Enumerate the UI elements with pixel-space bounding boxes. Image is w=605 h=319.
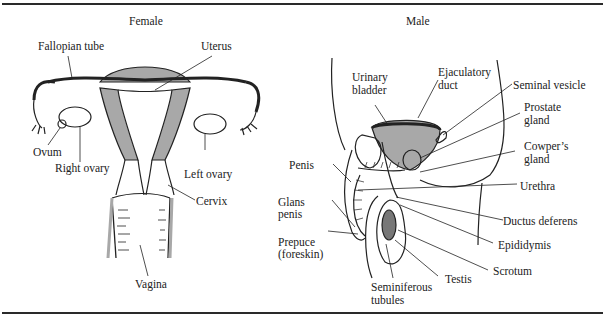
female-panel-title: Female (129, 15, 163, 27)
label-urinary-bladder-line2: bladder (352, 84, 386, 96)
label-vagina: Vagina (135, 278, 167, 290)
label-prepuce-line1: Prepuce (278, 236, 315, 248)
label-ductus-deferens: Ductus deferens (503, 215, 577, 227)
label-prostate-gland-line1: Prostate (524, 101, 561, 113)
label-seminal-vesicle: Seminal vesicle (513, 79, 586, 91)
label-epididymis: Epididymis (498, 239, 551, 251)
label-seminiferous-tubules-line1: Seminiferous (371, 281, 432, 293)
label-prepuce-line2: (foreskin) (278, 248, 323, 260)
label-penis: Penis (289, 159, 314, 171)
label-scrotum: Scrotum (493, 265, 532, 277)
label-right-ovary: Right ovary (55, 162, 110, 174)
label-cowpers-gland-line1: Cowper’s (524, 140, 569, 152)
label-glans-penis-line2: penis (278, 208, 302, 220)
label-seminiferous-tubules-line2: tubules (371, 294, 404, 306)
label-cervix: Cervix (196, 195, 227, 207)
label-fallopian-tube: Fallopian tube (38, 40, 104, 52)
label-left-ovary: Left ovary (184, 168, 232, 180)
label-urethra: Urethra (520, 180, 555, 192)
label-cowpers-gland-line2: gland (524, 153, 550, 165)
label-glans-penis-line1: Glans (278, 196, 305, 208)
male-panel-title: Male (406, 15, 430, 27)
label-testis: Testis (445, 273, 472, 285)
label-uterus: Uterus (201, 40, 232, 52)
label-ejaculatory-duct-line2: duct (438, 79, 458, 91)
label-prostate-gland-line2: gland (524, 114, 550, 126)
label-ovum: Ovum (33, 146, 62, 158)
label-urinary-bladder-line1: Urinary (352, 71, 388, 83)
label-ejaculatory-duct-line1: Ejaculatory (438, 66, 491, 78)
